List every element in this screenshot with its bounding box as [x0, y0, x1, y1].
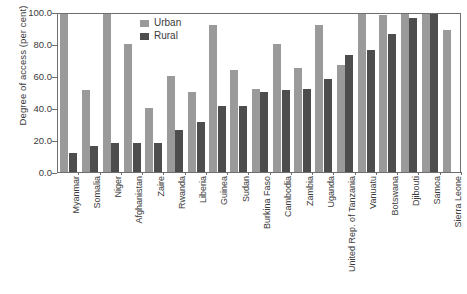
- bar-urban: [145, 108, 153, 172]
- legend-item-rural: Rural: [140, 30, 181, 42]
- x-axis-tickmark: [163, 172, 164, 175]
- bar-urban: [60, 13, 68, 172]
- bar-rural: [69, 153, 77, 172]
- bar-urban: [401, 13, 409, 172]
- x-axis-label-slot: Sierra Leone: [440, 176, 461, 294]
- x-axis-tickmark: [397, 172, 398, 175]
- plot-area: [57, 13, 461, 173]
- x-axis-label-slot: Rwanda: [163, 176, 184, 294]
- bar-rural: [303, 89, 311, 172]
- bar-rural: [430, 13, 438, 172]
- bar-urban: [82, 90, 90, 172]
- x-axis-tickmark: [312, 172, 313, 175]
- legend-label: Urban: [154, 18, 181, 28]
- bar-rural: [367, 50, 375, 172]
- x-axis-tickmark: [78, 172, 79, 175]
- x-axis-label-slot: Uganda: [312, 176, 333, 294]
- bar-chart: Degree of access (per cent) 100.080.060.…: [0, 0, 467, 294]
- x-axis-tickmark: [121, 172, 122, 175]
- bar-rural: [282, 90, 290, 172]
- x-axis-category-labels: MyanmarSomaliaNigerAfghanistanZaireRwand…: [57, 176, 461, 294]
- bar-rural: [345, 55, 353, 172]
- bar-urban: [230, 70, 238, 172]
- bars-layer: [58, 14, 460, 172]
- bar-urban: [443, 30, 451, 172]
- x-axis-label-slot: Myanmar: [57, 176, 78, 294]
- x-axis-tickmark: [206, 172, 207, 175]
- x-axis-tickmark: [227, 172, 228, 175]
- x-axis-tickmark: [248, 172, 249, 175]
- bar-urban: [252, 89, 260, 172]
- bar-urban: [379, 15, 387, 172]
- legend-label: Rural: [154, 31, 178, 41]
- y-axis-tick-label: 20.0: [34, 136, 53, 146]
- chart-legend: UrbanRural: [137, 16, 184, 44]
- x-axis-tickmark: [440, 172, 441, 175]
- bar-urban: [273, 44, 281, 172]
- y-axis-tick-labels: 100.080.060.040.020.00.0: [0, 0, 56, 294]
- x-axis-tickmark: [291, 172, 292, 175]
- bar-rural: [154, 143, 162, 172]
- x-axis-label-slot: Vanuatu: [355, 176, 376, 294]
- bar-rural: [409, 18, 417, 172]
- y-axis-tick-label: 0.0: [39, 168, 52, 178]
- bar-rural: [218, 106, 226, 172]
- x-axis-label-slot: Zaire: [142, 176, 163, 294]
- bar-urban: [337, 65, 345, 172]
- x-axis-label-slot: Burkina Faso: [248, 176, 269, 294]
- legend-item-urban: Urban: [140, 17, 181, 29]
- x-axis-tickmark: [418, 172, 419, 175]
- x-axis-tickmark: [100, 172, 101, 175]
- x-axis-tickmark: [355, 172, 356, 175]
- bar-rural: [324, 79, 332, 172]
- x-axis-category-label: Sierra Leone: [454, 176, 463, 228]
- bar-rural: [260, 92, 268, 172]
- x-axis-label-slot: Afghanistan: [121, 176, 142, 294]
- x-axis-label-slot: United Rep. of Tanzania: [333, 176, 354, 294]
- y-axis-tick-label: 60.0: [34, 72, 53, 82]
- x-axis-label-slot: Zambia: [291, 176, 312, 294]
- bar-rural: [388, 34, 396, 172]
- bar-rural: [239, 106, 247, 172]
- x-axis-tickmark: [185, 172, 186, 175]
- legend-swatch-icon: [140, 20, 149, 27]
- bar-urban: [167, 76, 175, 172]
- x-axis-label-slot: Liberia: [185, 176, 206, 294]
- x-axis-tickmark: [142, 172, 143, 175]
- bar-urban: [315, 25, 323, 172]
- x-axis-label-slot: Sudan: [227, 176, 248, 294]
- x-axis-label-slot: Somalia: [78, 176, 99, 294]
- bar-urban: [124, 44, 132, 172]
- x-axis-tickmark: [376, 172, 377, 175]
- x-axis-label-slot: Botswana: [376, 176, 397, 294]
- y-axis-tick-label: 40.0: [34, 104, 53, 114]
- bar-urban: [294, 68, 302, 172]
- bar-urban: [188, 92, 196, 172]
- x-axis-tickmark: [461, 172, 462, 175]
- x-axis-label-slot: Cambodia: [270, 176, 291, 294]
- bar-urban: [422, 13, 430, 172]
- bar-rural: [90, 146, 98, 172]
- bar-rural: [111, 143, 119, 172]
- x-axis-tickmark: [270, 172, 271, 175]
- bar-rural: [133, 143, 141, 172]
- x-axis-label-slot: Samoa: [418, 176, 439, 294]
- y-axis-tick-label: 80.0: [34, 40, 53, 50]
- bar-urban: [103, 13, 111, 172]
- bar-rural: [175, 130, 183, 172]
- bar-urban: [209, 25, 217, 172]
- x-axis-label-slot: Niger: [100, 176, 121, 294]
- bar-urban: [358, 13, 366, 172]
- x-axis-label-slot: Guinea: [206, 176, 227, 294]
- legend-swatch-icon: [140, 33, 149, 40]
- x-axis-tickmark: [333, 172, 334, 175]
- bar-rural: [197, 122, 205, 172]
- x-axis-label-slot: Djibouti: [397, 176, 418, 294]
- y-axis-tick-label: 100.0: [28, 8, 52, 18]
